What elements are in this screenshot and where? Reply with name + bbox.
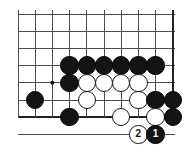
stone-black[interactable]: [60, 108, 78, 126]
go-diagram: 21: [0, 0, 190, 155]
move-stone-1[interactable]: 1: [146, 125, 164, 143]
stone-black[interactable]: [112, 56, 130, 74]
stone-black[interactable]: [129, 56, 147, 74]
stone-white[interactable]: [78, 74, 96, 92]
stone-white[interactable]: [146, 108, 164, 126]
stone-black[interactable]: [78, 56, 96, 74]
stone-white[interactable]: [129, 91, 147, 109]
stone-black[interactable]: [146, 56, 164, 74]
stone-black[interactable]: [60, 56, 78, 74]
move-stone-2[interactable]: 2: [129, 125, 147, 143]
move-number-label: 2: [130, 126, 146, 142]
star-point: [50, 81, 54, 85]
stone-white[interactable]: [78, 91, 96, 109]
stone-black[interactable]: [60, 74, 78, 92]
stone-black[interactable]: [146, 91, 164, 109]
stone-white[interactable]: [95, 74, 113, 92]
move-number-label: 1: [147, 126, 163, 142]
stone-black[interactable]: [95, 56, 113, 74]
stone-black[interactable]: [164, 91, 182, 109]
stone-white[interactable]: [129, 74, 147, 92]
